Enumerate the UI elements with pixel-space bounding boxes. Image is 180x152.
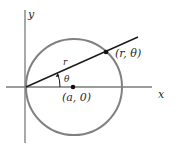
angle-label: θ <box>64 74 70 84</box>
y-axis-label: y <box>27 8 35 21</box>
point-center <box>71 85 76 90</box>
point-r-theta-label: (r, θ) <box>115 47 141 60</box>
x-axis-label: x <box>158 88 165 101</box>
polar-circle-diagram: y x (r, θ) (a, 0) r θ <box>0 0 180 152</box>
center-label: (a, 0) <box>62 91 91 104</box>
point-r-theta <box>104 50 109 55</box>
radius-label: r <box>63 57 68 67</box>
